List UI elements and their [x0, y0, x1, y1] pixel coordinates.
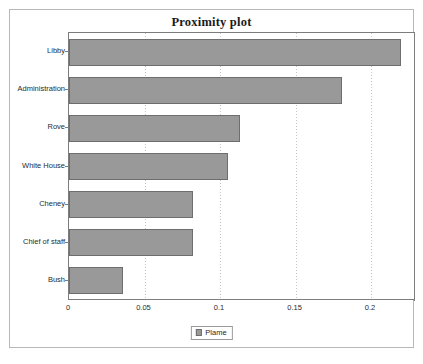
y-axis-tick-label: Bush — [48, 276, 65, 284]
y-axis-tick-label: Administration — [17, 85, 65, 93]
bar-libby[interactable] — [69, 39, 401, 66]
y-axis-tick-label: Libby — [47, 47, 65, 55]
bar-group — [69, 33, 415, 299]
plame-series-swatch — [195, 329, 201, 336]
bar-chief-of-staff[interactable] — [69, 229, 193, 256]
x-axis-tick-label: 0 — [66, 303, 70, 312]
bar-row — [69, 115, 415, 142]
bar-administration[interactable] — [69, 77, 342, 104]
x-axis-tick-label: 0.1 — [214, 303, 224, 312]
bar-row — [69, 191, 415, 218]
x-axis-tick-label: 0.15 — [287, 303, 302, 312]
bar-row — [69, 153, 415, 180]
bar-row — [69, 39, 415, 66]
y-axis-tick-label: White House — [22, 162, 65, 170]
y-axis-label-group: LibbyAdministrationRoveWhite HouseCheney… — [10, 32, 65, 300]
bar-row — [69, 229, 415, 256]
plot-frame-right-edge — [414, 32, 415, 301]
chart-window: Proximity plot LibbyAdministrationRoveWh… — [9, 9, 414, 348]
bar-white-house[interactable] — [69, 153, 228, 180]
y-axis-tick-label: Cheney — [39, 200, 65, 208]
bar-cheney[interactable] — [69, 191, 193, 218]
bar-row — [69, 77, 415, 104]
x-axis-label-group: 00.050.10.150.2 — [10, 303, 413, 317]
y-axis-tick-label: Chief of staff — [23, 238, 65, 246]
x-axis-tick-label: 0.05 — [136, 303, 151, 312]
bar-rove[interactable] — [69, 115, 240, 142]
chart-legend[interactable]: Plame — [190, 326, 232, 340]
y-axis-tick-label: Rove — [47, 123, 65, 131]
plot-area — [68, 32, 415, 300]
bar-row — [69, 267, 415, 294]
chart-title: Proximity plot — [10, 15, 413, 30]
bar-bush[interactable] — [69, 267, 123, 294]
x-axis-tick-label: 0.2 — [365, 303, 375, 312]
legend-item-label: Plame — [205, 328, 226, 337]
